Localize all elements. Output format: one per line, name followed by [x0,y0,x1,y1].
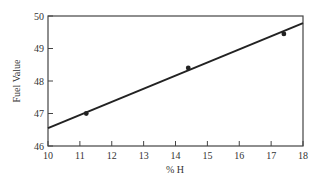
x-tick-label: 18 [298,150,308,161]
x-axis-ticks: 101112131415161718 [43,141,308,161]
plot-frame [48,16,303,146]
plot-border [48,16,303,146]
y-tick-label: 50 [34,11,44,22]
fuel-value-chart: 101112131415161718 4647484950 % H Fuel V… [0,0,321,184]
x-tick-label: 10 [43,150,53,161]
data-points [84,31,286,115]
data-point [281,31,286,36]
x-axis-title: % H [166,164,184,175]
y-tick-label: 48 [34,76,44,87]
y-tick-label: 49 [34,43,44,54]
y-axis-ticks: 4647484950 [34,11,53,152]
x-tick-label: 14 [171,150,181,161]
data-point [84,111,89,116]
x-tick-label: 15 [202,150,212,161]
x-tick-label: 17 [266,150,276,161]
data-point [186,66,191,71]
x-tick-label: 13 [139,150,149,161]
x-tick-label: 16 [234,150,244,161]
x-tick-label: 11 [75,150,85,161]
y-tick-label: 46 [34,141,44,152]
y-axis-title: Fuel Value [11,59,22,102]
x-tick-label: 12 [107,150,117,161]
y-tick-label: 47 [34,108,44,119]
